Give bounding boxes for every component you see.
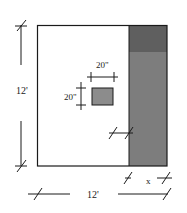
room-height-label: 12' [16, 85, 28, 96]
object-box [92, 88, 113, 105]
shaded-strip-top [129, 25, 167, 52]
room-height-dimension [15, 20, 27, 172]
object-width-dimension [87, 72, 118, 82]
object-height-label: 20" [64, 92, 77, 102]
room-diagram: 20" 20" 12' x 12' [0, 0, 187, 213]
room-width-label: 12' [87, 189, 99, 200]
object-height-dimension [76, 82, 86, 110]
strip-width-label: x [146, 176, 151, 186]
room-width-dimension [28, 188, 171, 200]
object-width-label: 20" [96, 60, 109, 70]
